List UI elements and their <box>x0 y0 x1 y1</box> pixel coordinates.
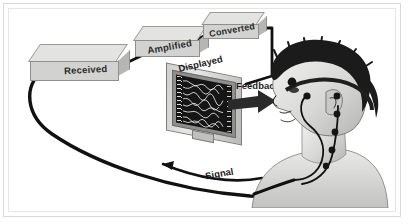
stage-box-received: Received <box>30 44 130 88</box>
stage-label-received: Received <box>64 63 108 76</box>
display-monitor <box>166 70 242 138</box>
biofeedback-diagram: Received Amplified Converted <box>0 0 408 224</box>
screen-right-scale <box>227 85 231 132</box>
box-top-face <box>28 44 128 62</box>
box-top-face <box>133 26 207 41</box>
screen-left-scale <box>177 76 182 123</box>
subject-illustration <box>250 34 390 208</box>
stage-box-amplified: Amplified <box>135 26 209 62</box>
